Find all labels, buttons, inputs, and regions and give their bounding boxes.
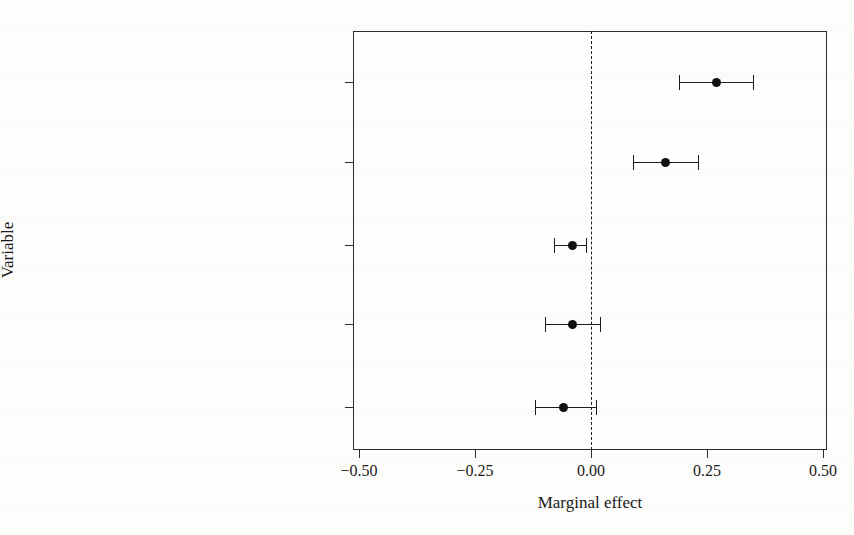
x-tick-label: −0.25 [456,462,493,480]
ci-lower-cap [679,75,680,90]
x-tick-label: −0.50 [340,462,377,480]
x-tick-label: 0.50 [809,462,837,480]
estimate-point [568,241,577,250]
plot-area-frame [353,31,827,450]
y-tick-mark [345,245,353,246]
figure-canvas: Variable Marginal effect High stake poli… [0,0,854,535]
ci-upper-cap [600,317,601,332]
x-tick-mark [591,450,592,458]
y-tick-mark [345,407,353,408]
y-axis-title: Variable [0,222,18,279]
ci-lower-cap [554,238,555,253]
x-tick-label: 0.00 [577,462,605,480]
ci-upper-cap [596,400,597,415]
y-tick-mark [345,162,353,163]
ci-lower-cap [545,317,546,332]
x-tick-mark [359,450,360,458]
estimate-point [661,158,670,167]
zero-reference-line [591,31,592,450]
x-tick-mark [707,450,708,458]
ci-lower-cap [633,155,634,170]
ci-lower-cap [535,400,536,415]
x-axis-title: Marginal effect [353,493,827,513]
x-tick-mark [823,450,824,458]
y-tick-mark [345,324,353,325]
x-tick-mark [475,450,476,458]
ci-upper-cap [698,155,699,170]
estimate-point [559,403,568,412]
ci-upper-cap [586,238,587,253]
estimate-point [712,78,721,87]
ci-upper-cap [753,75,754,90]
y-tick-mark [345,82,353,83]
x-tick-label: 0.25 [693,462,721,480]
estimate-point [568,320,577,329]
